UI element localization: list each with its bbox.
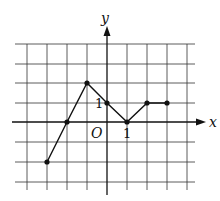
data-point [124, 119, 129, 124]
origin-label: O [91, 125, 103, 141]
y-axis-arrow-icon [104, 26, 111, 36]
y-axis-label: y [100, 10, 110, 26]
y-tick-label: 1 [95, 96, 103, 111]
data-point [44, 159, 49, 164]
data-point [104, 100, 109, 105]
data-point [144, 100, 149, 105]
graph-canvas: x y O 1 1 [0, 0, 220, 201]
x-axis-arrow-icon [196, 119, 206, 126]
data-point [84, 80, 89, 85]
x-axis-label: x [209, 114, 217, 130]
data-point [164, 100, 169, 105]
x-tick-label: 1 [123, 126, 131, 141]
data-point [64, 119, 69, 124]
grid [15, 44, 195, 190]
